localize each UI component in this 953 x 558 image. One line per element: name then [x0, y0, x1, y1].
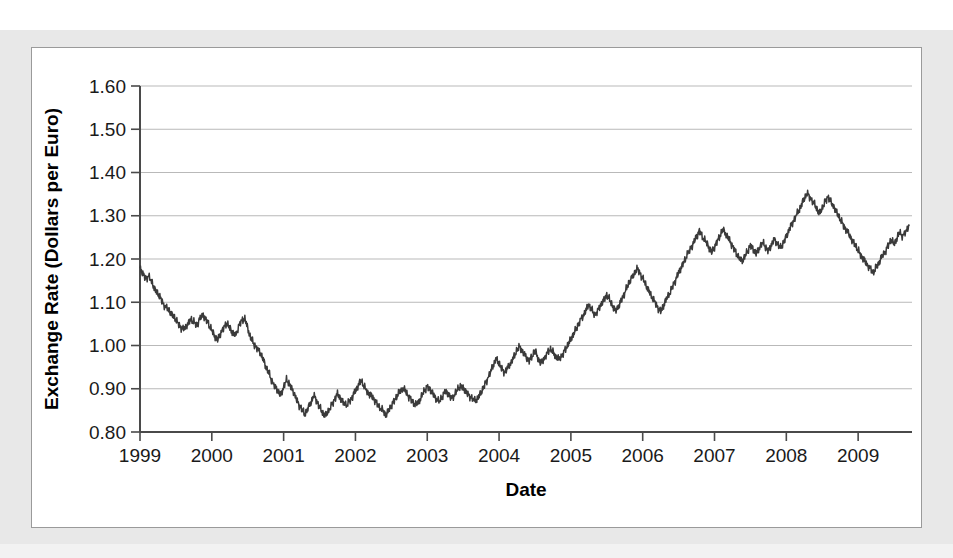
y-tick-label: 1.60: [89, 76, 126, 97]
y-axis-title: Exchange Rate (Dollars per Euro): [41, 108, 62, 410]
y-tick-label: 1.40: [89, 162, 126, 183]
y-tick-label: 1.00: [89, 335, 126, 356]
x-tick-label: 2001: [262, 445, 304, 466]
y-tick-label: 0.90: [89, 378, 126, 399]
y-tick-label: 0.80: [89, 422, 126, 443]
y-tick-label: 1.10: [89, 292, 126, 313]
chart-panel: 0.800.901.001.101.201.301.401.501.60 199…: [31, 47, 922, 528]
gridlines: [140, 86, 912, 432]
y-tick-label: 1.30: [89, 205, 126, 226]
x-tick-label: 1999: [119, 445, 161, 466]
x-tick-label: 2000: [191, 445, 233, 466]
y-axis-tick-labels: 0.800.901.001.101.201.301.401.501.60: [89, 76, 126, 443]
data-series-line: [140, 190, 909, 417]
x-tick-label: 2004: [478, 445, 521, 466]
x-axis-tick-labels: 1999200020012002200320042005200620072008…: [119, 445, 879, 466]
x-tick-label: 2008: [765, 445, 807, 466]
x-axis-title: Date: [505, 479, 546, 500]
x-tick-label: 2003: [406, 445, 448, 466]
figure-root: 0.800.901.001.101.201.301.401.501.60 199…: [0, 0, 953, 558]
y-axis-ticks: [131, 86, 140, 432]
x-tick-label: 2007: [693, 445, 735, 466]
exchange-rate-line-chart: 0.800.901.001.101.201.301.401.501.60 199…: [32, 48, 923, 529]
x-tick-label: 2005: [550, 445, 592, 466]
x-tick-label: 2002: [334, 445, 376, 466]
x-tick-label: 2006: [622, 445, 664, 466]
x-axis-ticks: [140, 432, 858, 441]
y-tick-label: 1.20: [89, 249, 126, 270]
y-tick-label: 1.50: [89, 119, 126, 140]
x-tick-label: 2009: [837, 445, 879, 466]
